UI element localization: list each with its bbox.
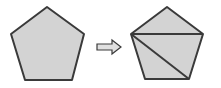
arrow-right-icon — [97, 40, 121, 54]
diagram-canvas — [0, 0, 221, 88]
pentagon-original — [11, 7, 84, 80]
